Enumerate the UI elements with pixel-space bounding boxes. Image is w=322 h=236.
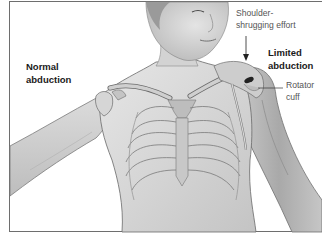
label-line: Rotator [286, 80, 314, 92]
label-limited-abduction: Limited abduction [268, 46, 313, 72]
label-line: Shoulder- [236, 8, 296, 20]
label-shoulder-shrugging-effort: Shoulder- shrugging effort [236, 8, 296, 31]
label-line: shrugging effort [236, 20, 296, 32]
label-line: abduction [268, 59, 313, 72]
label-line: cuff [286, 92, 314, 104]
label-line: Limited [268, 46, 313, 59]
label-line: abduction [26, 73, 71, 86]
anatomy-illustration [0, 0, 322, 236]
head [146, 2, 228, 61]
label-line: Normal [26, 60, 71, 73]
label-rotator-cuff: Rotator cuff [286, 80, 314, 103]
label-normal-abduction: Normal abduction [26, 60, 71, 86]
annotation-arrow [243, 36, 249, 61]
left-arm [10, 96, 112, 196]
down-arrow-icon [243, 54, 249, 61]
